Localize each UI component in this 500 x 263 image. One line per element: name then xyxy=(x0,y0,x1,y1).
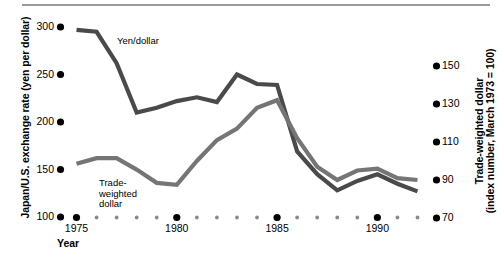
x-axis-label-1980: 1980 xyxy=(155,222,199,234)
x-axis-tick-dot-minor xyxy=(416,216,420,220)
x-axis-tick-dot-minor xyxy=(195,216,199,220)
y-axis-label-left-200: 200 xyxy=(20,115,54,127)
y-axis-tick-dot-right xyxy=(433,138,440,145)
y-axis-tick-dot-left xyxy=(57,23,64,30)
x-axis-tick-dot-minor xyxy=(335,216,339,220)
y-axis-label-left-150: 150 xyxy=(20,163,54,175)
y-axis-label-right-110: 110 xyxy=(442,135,476,147)
y-axis-tick-dot-left xyxy=(57,71,64,78)
x-axis-label-1990: 1990 xyxy=(355,222,399,234)
series-line-yen-dollar xyxy=(77,30,418,192)
x-axis-tick-dot-major xyxy=(73,214,80,221)
y-axis-tick-dot-left xyxy=(57,213,64,220)
x-axis-label-1975: 1975 xyxy=(55,222,99,234)
x-axis-tick-dot-minor xyxy=(295,216,299,220)
x-axis-tick-dot-major xyxy=(374,214,381,221)
x-axis-tick-dot-major xyxy=(173,214,180,221)
x-axis-tick-dot-minor xyxy=(315,216,319,220)
x-axis-tick-dot-minor xyxy=(155,216,159,220)
x-axis-tick-dot-minor xyxy=(235,216,239,220)
y-axis-tick-dot-left xyxy=(57,118,64,125)
x-axis-tick-dot-minor xyxy=(115,216,119,220)
chart-figure: Japan/U.S. exchange rate (yen per dollar… xyxy=(0,0,500,263)
x-axis-tick-dot-minor xyxy=(135,216,139,220)
y-axis-tick-dot-right xyxy=(433,62,440,69)
x-axis-tick-dot-minor xyxy=(396,216,400,220)
series-line-trade-weighted-dollar xyxy=(77,100,418,185)
y-axis-label-left-100: 100 xyxy=(20,210,54,222)
x-axis-tick-dot-minor xyxy=(255,216,259,220)
x-axis-tick-dot-major xyxy=(273,214,280,221)
y-axis-tick-dot-right xyxy=(433,100,440,107)
y-axis-tick-dot-left xyxy=(57,166,64,173)
y-axis-label-left-300: 300 xyxy=(20,20,54,32)
y-axis-label-right-150: 150 xyxy=(442,59,476,71)
y-axis-label-left-250: 250 xyxy=(20,68,54,80)
y-axis-label-right-70: 70 xyxy=(442,211,476,223)
x-axis-tick-dot-minor xyxy=(355,216,359,220)
y-axis-tick-dot-right xyxy=(433,176,440,183)
y-axis-tick-dot-right xyxy=(433,214,440,221)
x-axis-tick-dot-minor xyxy=(95,216,99,220)
y-axis-label-right-130: 130 xyxy=(442,97,476,109)
x-axis-label-1985: 1985 xyxy=(255,222,299,234)
x-axis-tick-dot-minor xyxy=(215,216,219,220)
y-axis-label-right-90: 90 xyxy=(442,173,476,185)
